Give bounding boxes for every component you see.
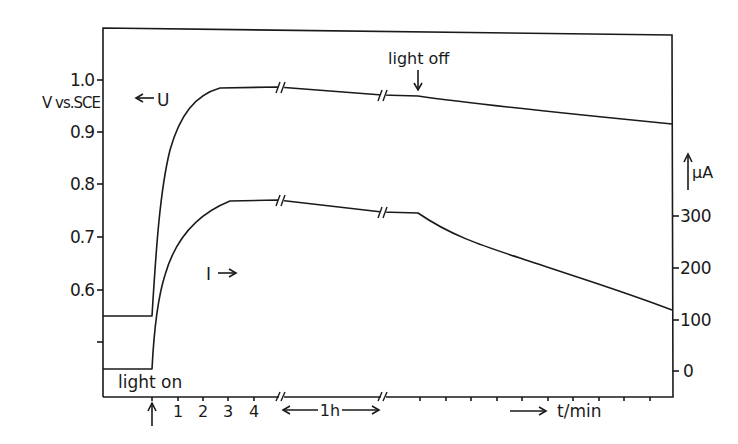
series-i-curve [103,200,672,369]
series-u-curve [103,87,672,316]
light-off-label: light off [388,49,450,68]
xtick-4: 4 [249,402,259,421]
x-axis-arrow-icon [510,407,546,415]
xtick-3: 3 [223,402,233,421]
ytick-left-1.0: 1.0 [70,70,94,90]
curve-break-marks [276,82,387,218]
i-series-label: I [206,264,211,284]
light-on-arrow-icon [148,403,156,426]
light-off-arrow-icon [414,70,422,90]
u-arrow-icon [136,94,154,102]
right-axis-tick-labels: 300 200 100 0 [680,206,711,381]
chart: 1.0 0.9 0.8 0.7 0.6 V vs.SCE 300 200 100… [0,0,738,444]
x-axis-label: t/min [557,401,601,421]
i-arrow-icon [218,269,236,277]
left-axis-label: V vs.SCE [42,94,100,112]
right-axis-ticks [673,216,679,371]
x-axis-tick-labels: 1 2 3 4 [173,402,259,421]
ytick-left-0.7: 0.7 [70,227,94,247]
right-axis-label: µA [692,163,713,182]
u-series-label: U [157,90,169,110]
light-on-label: light on [118,372,182,392]
left-axis-ticks [97,80,103,342]
ytick-right-100: 100 [680,310,711,330]
xtick-2: 2 [198,402,208,421]
ytick-left-0.9: 0.9 [70,122,94,142]
one-hour-label: 1h [320,401,340,420]
ytick-left-0.6: 0.6 [70,280,94,300]
xtick-1: 1 [173,402,183,421]
ytick-left-0.8: 0.8 [70,174,94,194]
ytick-right-0: 0 [683,361,694,381]
right-axis-label-group: µA [684,154,713,190]
ytick-right-200: 200 [680,258,711,278]
ytick-right-300: 300 [680,206,711,226]
